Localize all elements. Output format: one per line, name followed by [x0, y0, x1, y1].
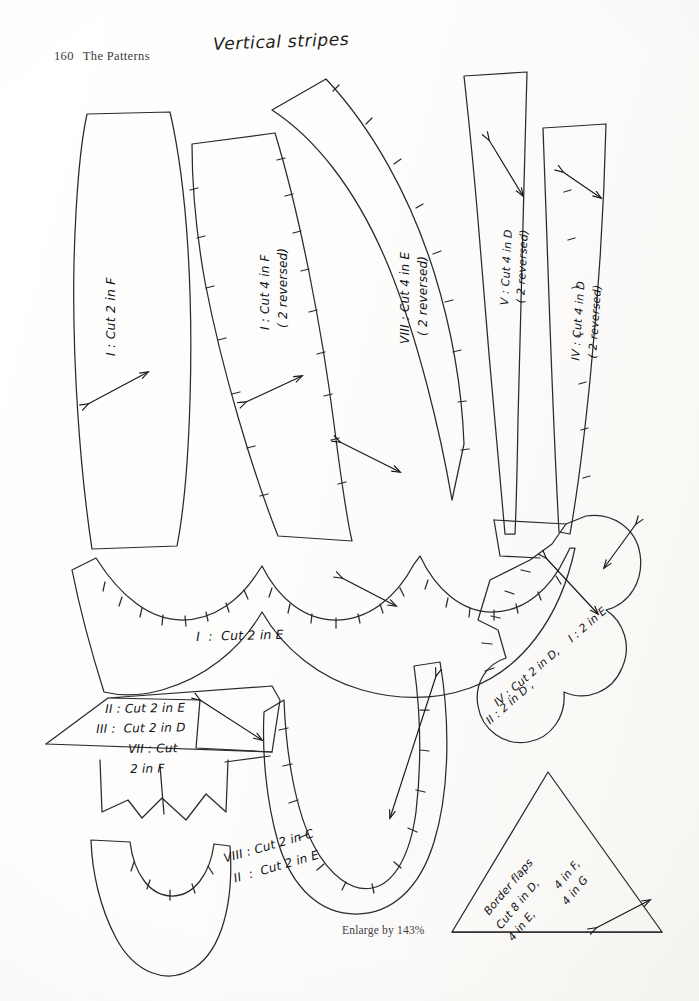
- pattern-book-page: 160The Patterns Vertical stripes Enlarge…: [0, 0, 699, 1001]
- piece-wide-curved-panel-E: [272, 79, 469, 500]
- pattern-pieces-drawing: [0, 0, 699, 1001]
- piece-scalloped-band-E: [72, 548, 575, 697]
- label-piece-6: I : Cut 2 in E: [196, 628, 284, 645]
- label-piece-3-line2: ( 2 reversed): [416, 256, 430, 336]
- grainline-arrow-piece-5: [563, 172, 601, 198]
- piece-curved-panel-F: [190, 133, 352, 541]
- label-piece-7-line2: III : Cut 2 in D: [96, 720, 186, 736]
- grainline-arrow-piece-9: [604, 524, 636, 568]
- grainline-arrows: [88, 140, 650, 928]
- label-piece-2-line2: ( 2 reversed): [276, 248, 290, 328]
- piece-crescent-bottom-left: [91, 840, 231, 976]
- enlarge-note: Enlarge by 143%: [342, 924, 425, 936]
- folio-number: 160: [54, 49, 74, 63]
- label-piece-2-line1: I : Cut 4 in F: [258, 254, 272, 330]
- label-piece-3-line1: VIII : Cut 4 in E: [398, 252, 412, 344]
- grainline-arrow-piece-7: [200, 700, 262, 740]
- grainline-arrow-piece-9b: [546, 558, 598, 614]
- grainline-arrow-piece-10: [596, 900, 650, 928]
- label-piece-7-line3: VII : Cut: [128, 741, 178, 756]
- page-folio: 160The Patterns: [54, 49, 150, 64]
- grainline-arrow-piece-2: [246, 376, 302, 402]
- label-piece-7-line1: II : Cut 2 in E: [105, 701, 185, 717]
- grainline-arrow-piece-6: [342, 578, 396, 606]
- grainline-arrow-piece-4: [489, 140, 523, 196]
- grainline-arrow-piece-3: [340, 442, 400, 472]
- grainline-arrow-piece-1: [88, 372, 148, 404]
- label-piece-1: I : Cut 2 in F: [104, 277, 119, 356]
- piece-long-curved-panel-F: [74, 112, 191, 549]
- label-piece-7-line4: 2 in F: [130, 761, 165, 776]
- piece-rounded-tab-C-E: [264, 662, 447, 914]
- folio-section-title: The Patterns: [83, 49, 150, 63]
